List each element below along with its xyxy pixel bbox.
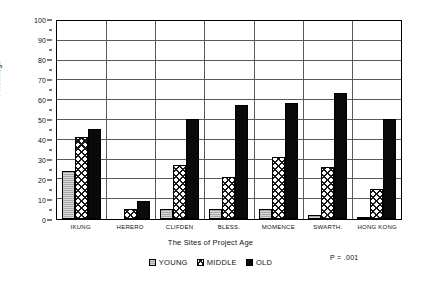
bar-middle-momence <box>272 157 285 219</box>
x-label-bless: BLESS. <box>204 224 253 230</box>
bar-group-clifden <box>155 21 204 219</box>
bar-middle-bless <box>222 177 235 219</box>
p-value-annotation: P = .001 <box>330 254 359 261</box>
bar-group-momence <box>254 21 303 219</box>
y-tick-mark-100 <box>47 20 52 21</box>
bar-groups <box>57 21 401 219</box>
bar-group-swarth <box>303 21 352 219</box>
x-label-clifden: CLIFDEN <box>155 224 204 230</box>
y-minor-tick-55 <box>49 110 52 111</box>
y-tick-label-90: 90 <box>38 37 46 44</box>
bar-young-swarth <box>308 215 321 219</box>
bar-middle-clifden <box>173 165 186 219</box>
bar-middle-hong-kong <box>370 189 383 219</box>
y-tick-label-20: 20 <box>38 177 46 184</box>
bar-young-bless <box>209 209 222 219</box>
x-axis-category-labels: IKUNGHEREROCLIFDENBLESS.MOMENCESWARTH.HO… <box>56 224 402 230</box>
middle-swatch-icon <box>197 259 204 266</box>
bar-middle-ikung <box>75 137 88 219</box>
y-minor-tick-35 <box>49 150 52 151</box>
x-label-ikung: IKUNG <box>56 224 105 230</box>
y-tick-label-70: 70 <box>38 77 46 84</box>
legend-item-young: YOUNG <box>149 258 188 267</box>
bar-group-ikung <box>57 21 106 219</box>
x-axis-title: The Sites of Project Age <box>0 238 421 247</box>
y-minor-tick-15 <box>49 190 52 191</box>
y-minor-tick-65 <box>49 90 52 91</box>
y-tick-label-40: 40 <box>38 137 46 144</box>
bar-young-clifden <box>160 209 173 219</box>
y-tick-mark-20 <box>47 180 52 181</box>
y-tick-mark-0 <box>47 220 52 221</box>
y-tick-label-10: 10 <box>38 197 46 204</box>
y-tick-mark-70 <box>47 80 52 81</box>
bar-middle-swarth <box>321 167 334 219</box>
bar-old-ikung <box>88 129 101 219</box>
bar-old-hong-kong <box>383 119 396 219</box>
y-tick-mark-60 <box>47 100 52 101</box>
y-tick-mark-80 <box>47 60 52 61</box>
old-swatch-icon <box>246 259 253 266</box>
legend-label: MIDDLE <box>207 258 237 267</box>
bar-old-herero <box>137 201 150 219</box>
y-tick-mark-30 <box>47 160 52 161</box>
bar-old-swarth <box>334 93 347 219</box>
y-tick-label-80: 80 <box>38 57 46 64</box>
y-minor-tick-95 <box>49 30 52 31</box>
bar-young-hong-kong <box>357 217 370 219</box>
y-minor-tick-85 <box>49 50 52 51</box>
legend-label: YOUNG <box>159 258 188 267</box>
bar-young-momence <box>259 209 272 219</box>
legend-item-middle: MIDDLE <box>197 258 237 267</box>
bar-group-herero <box>106 21 155 219</box>
legend-item-old: OLD <box>246 258 272 267</box>
y-minor-tick-5 <box>49 210 52 211</box>
y-axis-ticks: 0102030405060708090100 <box>0 20 52 220</box>
y-tick-label-100: 100 <box>34 17 46 24</box>
y-tick-label-0: 0 <box>42 217 46 224</box>
y-tick-mark-50 <box>47 120 52 121</box>
y-tick-label-30: 30 <box>38 157 46 164</box>
x-label-herero: HERERO <box>105 224 154 230</box>
plot-area <box>56 20 402 220</box>
bar-old-clifden <box>186 119 199 219</box>
y-minor-tick-75 <box>49 70 52 71</box>
y-tick-mark-40 <box>47 140 52 141</box>
x-label-momence: MOMENCE <box>254 224 303 230</box>
x-label-swarth: SWARTH. <box>303 224 352 230</box>
y-tick-mark-10 <box>47 200 52 201</box>
bar-old-momence <box>285 103 298 219</box>
bar-group-hong-kong <box>352 21 401 219</box>
y-tick-label-60: 60 <box>38 97 46 104</box>
x-label-hong-kong: HONG KONG <box>353 224 402 230</box>
y-minor-tick-25 <box>49 170 52 171</box>
y-tick-mark-90 <box>47 40 52 41</box>
young-swatch-icon <box>149 259 156 266</box>
bar-middle-herero <box>124 209 137 219</box>
bar-young-ikung <box>62 171 75 219</box>
bar-old-bless <box>235 105 248 219</box>
y-tick-label-50: 50 <box>38 117 46 124</box>
y-minor-tick-45 <box>49 130 52 131</box>
chart-figure: Percentage 0102030405060708090100 IKUNGH… <box>0 0 421 285</box>
bar-group-bless <box>204 21 253 219</box>
legend-label: OLD <box>256 258 272 267</box>
